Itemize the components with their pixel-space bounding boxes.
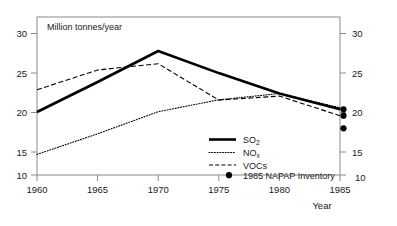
units-note: Million tonnes/year (47, 22, 122, 32)
legend-swatch-napap-inventory (226, 172, 232, 178)
y-tick-label-10: 10 (16, 170, 27, 181)
y-tick-label-30: 30 (16, 28, 27, 39)
y-tick-right-label-25: 25 (352, 68, 363, 79)
y-tick-right-label-20: 20 (352, 107, 363, 118)
x-tick-label-1985: 1985 (329, 184, 350, 195)
x-tick-label-1975: 1975 (208, 184, 229, 195)
chart-figure: 30 25 20 15 10 30 25 20 15 10 (0, 0, 397, 226)
x-tick-label-1960: 1960 (26, 184, 47, 195)
napap-marker-vocs (340, 113, 346, 119)
x-axis-title: Year (312, 200, 331, 211)
napap-marker-nox (340, 125, 346, 131)
legend-label-vocs: VOCs (243, 161, 268, 171)
x-tick-label-1965: 1965 (87, 184, 108, 195)
x-tick-label-1980: 1980 (269, 184, 290, 195)
x-tick-label-1970: 1970 (148, 184, 169, 195)
y-tick-right-label-30: 30 (352, 28, 363, 39)
emissions-line-chart: 30 25 20 15 10 30 25 20 15 10 (0, 0, 397, 226)
y-tick-label-20: 20 (16, 107, 27, 118)
y-tick-right-label-15: 15 (352, 147, 363, 158)
y-tick-right-label-10: 10 (355, 172, 366, 183)
legend-label-napap-inventory: 1985 NAPAP Inventory (243, 171, 335, 181)
y-tick-label-25: 25 (16, 68, 27, 79)
napap-marker-so2 (340, 106, 346, 112)
y-tick-label-15: 15 (16, 147, 27, 158)
